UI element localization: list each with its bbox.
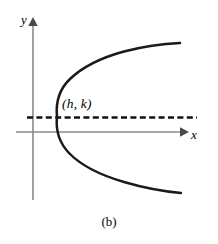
plot-canvas bbox=[0, 0, 218, 244]
vertex-label: (h, k) bbox=[62, 97, 92, 111]
x-axis-arrowhead bbox=[180, 127, 189, 137]
parabola-lower-branch bbox=[57, 117, 181, 193]
x-axis-label: x bbox=[191, 128, 197, 141]
y-axis-label: y bbox=[21, 13, 27, 26]
parabola-figure: y x (h, k) (b) bbox=[0, 0, 218, 244]
y-axis-arrowhead bbox=[28, 17, 37, 26]
figure-caption: (b) bbox=[0, 215, 218, 228]
